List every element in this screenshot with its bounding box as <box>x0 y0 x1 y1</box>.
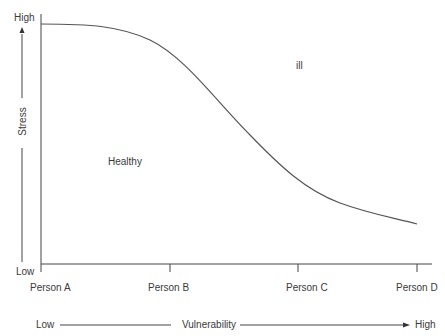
person-a-label: Person A <box>30 282 71 293</box>
person-d-label: Person D <box>396 282 438 293</box>
x-high-label: High <box>415 319 436 330</box>
person-b-label: Person B <box>148 282 189 293</box>
stress-vulnerability-curve <box>41 24 417 224</box>
region-ill-label: ill <box>296 60 303 71</box>
person-c-label: Person C <box>286 282 328 293</box>
y-high-label: High <box>14 12 35 23</box>
stress-arrow-head-icon <box>20 27 25 33</box>
y-low-label: Low <box>16 266 34 277</box>
x-low-label: Low <box>36 319 54 330</box>
vulnerability-arrow-head-icon <box>403 323 410 328</box>
region-healthy-label: Healthy <box>108 156 142 167</box>
y-axis-title: Stress <box>17 102 28 142</box>
x-axis-title: Vulnerability <box>182 319 236 330</box>
